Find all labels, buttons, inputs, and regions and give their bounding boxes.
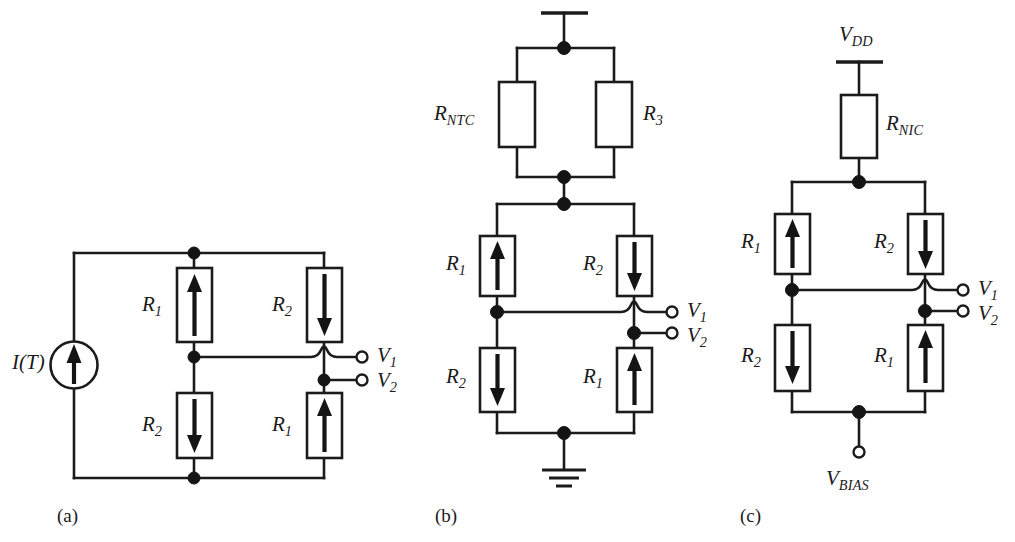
panel-c-output-v2-label: V2 xyxy=(978,303,998,327)
panel-a-current-source-symbol xyxy=(51,342,98,389)
panel-c-resistor-top-right xyxy=(908,214,943,274)
panel-c-output-v1-label: V1 xyxy=(978,278,998,302)
panel-c-output-terminals xyxy=(958,285,969,317)
panel-b-output-terminals xyxy=(667,307,678,339)
panel-c-resistor-bottom-left xyxy=(775,325,810,391)
panel-b-resistor-r3-label: R3 xyxy=(643,103,663,127)
panel-a-output-terminals xyxy=(357,352,368,386)
panel-c-resistor-bottom-right xyxy=(908,325,943,391)
panel-b-resistor-bottom-left xyxy=(480,348,515,412)
panel-b-resistor-ntc-label: RNTC xyxy=(434,103,474,127)
panel-c-resistor-top-left-label: R1 xyxy=(741,231,761,255)
panel-c-resistor-top-right-label: R2 xyxy=(874,231,894,255)
panel-b-resistor-bottom-left-label: R2 xyxy=(446,366,466,390)
panel-b-resistor-top-right xyxy=(617,236,652,296)
circuit-figure: I(T) R1 R2 R2 R1 V1 V2 (a) RNTC R3 R1 R2… xyxy=(0,0,1015,542)
panel-a-source-label: I(T) xyxy=(12,352,45,373)
panel-c-supply-label: VDD xyxy=(839,24,873,48)
panel-b-resistor-bottom-right-label: R1 xyxy=(583,366,603,390)
panel-a-resistor-top-right-label: R2 xyxy=(272,294,292,318)
panel-c-resistor-nic-label: RNIC xyxy=(886,113,923,137)
panel-c-resistor-bottom-right-label: R1 xyxy=(874,345,894,369)
panel-b-resistor-r3 xyxy=(596,82,632,147)
panel-a-resistor-bottom-left-label: R2 xyxy=(142,414,162,438)
panel-a-resistor-top-left-label: R1 xyxy=(142,294,162,318)
panel-c-circuit xyxy=(775,62,969,458)
panel-b-resistor-top-left xyxy=(480,236,515,296)
panel-c-resistor-top-left xyxy=(775,214,810,274)
panel-c-resistor-nic xyxy=(841,95,877,158)
panel-b-output-v1-label: V1 xyxy=(687,300,707,324)
panel-b-caption: (b) xyxy=(435,505,457,527)
panel-a-circuit xyxy=(51,247,368,484)
panel-b-circuit xyxy=(480,13,678,486)
panel-b-resistor-bottom-right xyxy=(617,348,652,412)
panel-a-resistor-bottom-left xyxy=(177,393,212,458)
panel-c-bias-terminal-symbol xyxy=(854,447,865,458)
panel-a-output-v1-label: V1 xyxy=(377,345,397,369)
panel-a-resistor-top-right xyxy=(307,268,342,342)
panel-a-caption: (a) xyxy=(57,505,78,527)
panel-c-bias-label: VBIAS xyxy=(826,468,869,492)
panel-a-resistor-top-left xyxy=(177,268,212,342)
panel-c-resistor-bottom-left-label: R2 xyxy=(741,345,761,369)
panel-b-resistor-ntc xyxy=(499,82,535,147)
panel-b-output-v2-label: V2 xyxy=(687,325,707,349)
panel-a-resistor-bottom-right-label: R1 xyxy=(272,414,292,438)
panel-b-resistor-top-left-label: R1 xyxy=(446,253,466,277)
panel-a-output-v2-label: V2 xyxy=(377,370,397,394)
panel-b-resistor-top-right-label: R2 xyxy=(583,253,603,277)
panel-c-caption: (c) xyxy=(740,505,761,527)
panel-a-resistor-bottom-right xyxy=(307,393,342,458)
circuit-svg-canvas xyxy=(0,0,1015,542)
